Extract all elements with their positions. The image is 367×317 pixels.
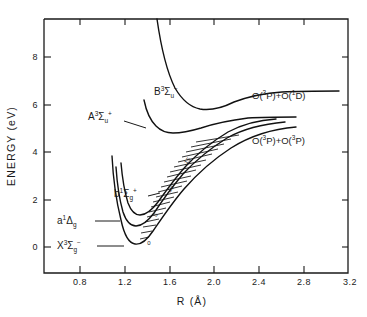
state-B-charge: −: [174, 85, 178, 92]
y-tick-label-2: 2: [32, 195, 38, 205]
state-a-sub: g: [73, 221, 77, 229]
x-axis-title: R (Å): [177, 295, 208, 307]
limit-upper-p2: D): [295, 90, 305, 101]
limit-lower-p2: P): [295, 135, 305, 146]
potential-energy-diagram: 8 6 4 2 0 0.8 1.2 1.6 2.0 2.: [0, 0, 367, 317]
x-tick-label-3-2: 3.2: [343, 277, 357, 287]
x-tick-label-1-2: 1.2: [118, 277, 132, 287]
y-tick-label-4: 4: [32, 147, 38, 157]
x-tick-label-2-0: 2.0: [207, 277, 221, 287]
y-axis-title: ENERGY (eV): [5, 106, 17, 186]
limit-lower-p1: P)+O(: [266, 135, 292, 146]
x-tick-label-2-8: 2.8: [297, 277, 311, 287]
state-X-charge: −: [77, 239, 81, 246]
dissociation-limit-lower: O(3P)+O(3P): [252, 134, 305, 146]
x-tick-label-0-8: 0.8: [73, 277, 87, 287]
state-X-sub: g: [73, 246, 77, 254]
state-B-sub: u: [170, 92, 174, 99]
x-tick-label-1-6: 1.6: [163, 277, 177, 287]
chart-svg: 8 6 4 2 0 0.8 1.2 1.6 2.0 2.: [0, 0, 367, 317]
chart-background: [0, 0, 367, 317]
state-A-sub: u: [104, 117, 108, 124]
limit-upper-p1: P)+O(: [266, 90, 292, 101]
y-tick-label-0: 0: [32, 242, 38, 252]
state-A-charge: +: [108, 110, 112, 117]
y-tick-label-8: 8: [32, 52, 38, 62]
state-b-sub: g: [129, 194, 133, 202]
state-b-charge: +: [133, 187, 137, 194]
dissociation-limit-upper: O(3P)+O(1D): [252, 89, 305, 101]
x-tick-label-2-4: 2.4: [252, 277, 266, 287]
y-tick-label-6: 6: [32, 100, 38, 110]
